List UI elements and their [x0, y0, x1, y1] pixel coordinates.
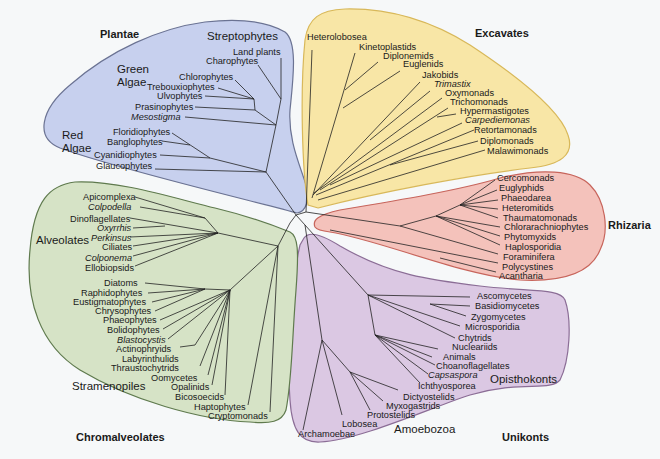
taxon-label: Bicosoecids: [175, 392, 224, 402]
taxon-label: Foraminifera: [503, 252, 555, 262]
taxon-label: Heterolobosea: [307, 32, 367, 42]
taxon-label: Archamoebae: [298, 429, 355, 439]
taxon-label: Mesostigma: [131, 112, 181, 122]
supergroup-unikonts: Unikonts: [502, 431, 549, 443]
taxon-label: Cercomonads: [497, 173, 554, 183]
taxon-label: Euglyphids: [499, 183, 544, 193]
subgroup-green-algae-line2: Algae: [117, 76, 146, 88]
taxon-label: Haplosporidia: [505, 242, 561, 252]
subgroup-red-algae-line2: Algae: [62, 142, 91, 154]
taxon-label: Glaucophytes: [96, 161, 152, 171]
taxon-label: Phaeodarea: [501, 193, 551, 203]
taxon-label: Zygomycetes: [471, 312, 526, 322]
taxon-label: Prasinophytes: [135, 102, 193, 112]
taxon-label: Bolidophytes: [107, 325, 160, 335]
taxon-label: Colpodella: [88, 202, 131, 212]
supergroup-rhizaria: Rhizaria: [608, 219, 651, 231]
taxon-label: Diatoms: [104, 278, 138, 288]
taxon-label: Ulvophytes: [157, 91, 202, 101]
subgroup-alveolates: Alveolates: [36, 234, 89, 246]
taxon-label: Chlorarachniophytes: [504, 222, 588, 232]
taxon-label: Oxyrrhis: [97, 223, 131, 233]
subgroup-opisthokonts: Opisthokonts: [490, 373, 557, 385]
taxon-label: Cryptomonads: [208, 411, 268, 421]
taxon-label: Cyanidiophytes: [94, 150, 157, 160]
taxon-label: Colponema: [85, 253, 132, 263]
taxon-label: Carpediemonas: [465, 115, 530, 125]
subgroup-streptophytes: Streptophytes: [207, 30, 278, 42]
subgroup-amoebozoa: Amoebozoa: [394, 423, 455, 435]
taxon-label: Euglenids: [403, 59, 443, 69]
subgroup-stramenopiles: Stramenopiles: [72, 380, 146, 392]
taxon-label: Ellobiopsids: [85, 263, 134, 273]
taxon-label: Ciliates: [102, 242, 132, 252]
taxon-label: Basidiomycetes: [475, 301, 539, 311]
taxon-label: Nucleariids: [452, 342, 497, 352]
taxon-label: Floridiophytes: [113, 127, 170, 137]
taxon-label: Microsporidia: [465, 322, 520, 332]
taxon-label: Lobosea: [342, 419, 377, 429]
taxon-label: Banglophytes: [107, 137, 163, 147]
subgroup-green-algae-line1: Green: [117, 63, 149, 75]
supergroup-plantae: Plantae: [100, 28, 139, 40]
taxon-label: Ichthyosporea: [418, 381, 476, 391]
taxon-label: Phytomyxids: [504, 232, 556, 242]
taxon-label: Heteromitids: [502, 203, 554, 213]
taxon-label: Ascomycetes: [477, 291, 532, 301]
taxon-label: Charophytes: [206, 56, 258, 66]
taxon-label: Chlorophytes: [179, 72, 233, 82]
taxon-label: Phaeophytes: [103, 315, 157, 325]
taxon-label: Opalinids: [171, 382, 209, 392]
supergroup-excavates: Excavates: [475, 27, 529, 39]
taxon-label: Thraustochytrids: [111, 363, 179, 373]
taxon-label: Diplomonads: [480, 136, 534, 146]
taxon-label: Apicomplexa: [83, 192, 136, 202]
taxon-label: Capsaspora: [428, 370, 478, 380]
taxon-label: Malawimonads: [487, 146, 548, 156]
taxon-label: Acantharia: [499, 271, 543, 281]
taxon-label: Actinophryids: [116, 344, 171, 354]
supergroup-chromalveolates: Chromalveolates: [76, 431, 165, 443]
taxon-label: Retortamonads: [474, 125, 537, 135]
subgroup-red-algae-line1: Red: [62, 129, 83, 141]
eukaryote-phylogeny-diagram: Plantae Excavates Rhizaria Unikonts Chro…: [0, 0, 660, 459]
